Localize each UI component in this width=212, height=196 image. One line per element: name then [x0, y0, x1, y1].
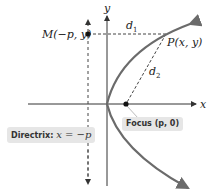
focus-label: Focus (p, 0)	[122, 117, 183, 131]
directrix-label: Directrix: x = −p	[7, 127, 95, 143]
point-m-label: M(−p, y)	[42, 29, 91, 40]
point-focus	[123, 101, 128, 106]
d2-label: d2	[149, 66, 161, 80]
parabola-diagram	[0, 0, 212, 196]
d1-label: d1	[126, 20, 138, 34]
x-axis-label: x	[200, 99, 206, 110]
y-axis-label: y	[104, 3, 110, 14]
point-p-label: P(x, y)	[167, 37, 202, 48]
